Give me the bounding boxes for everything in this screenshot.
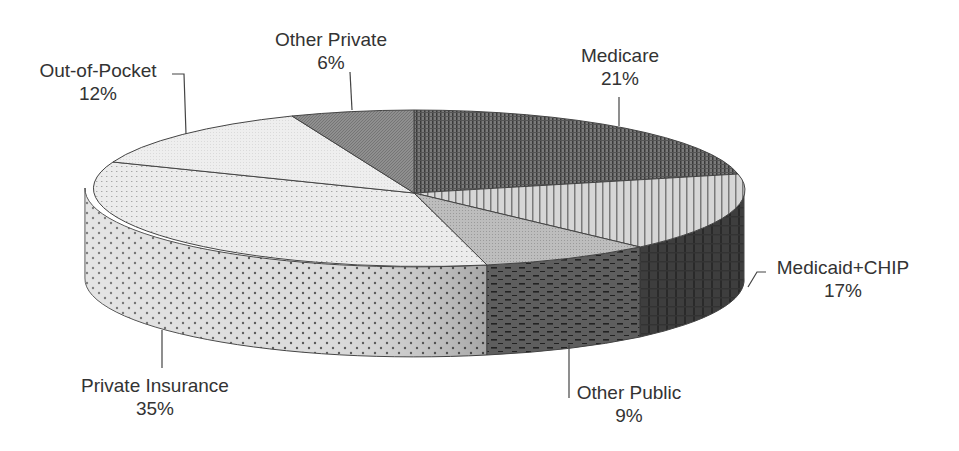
label-other-public-name: Other Public [568,381,690,404]
label-medicare: Medicare 21% [570,44,670,90]
label-medicaid-chip: Medicaid+CHIP 17% [768,256,918,302]
label-medicare-name: Medicare [570,44,670,67]
label-private-insurance-name: Private Insurance [64,374,246,397]
label-private-insurance: Private Insurance 35% [64,374,246,420]
label-out-of-pocket: Out-of-Pocket 12% [24,59,172,105]
label-other-public-value: 9% [568,404,690,427]
label-medicaid-chip-name: Medicaid+CHIP [768,256,918,279]
label-medicare-value: 21% [570,67,670,90]
label-other-private: Other Private 6% [256,28,406,74]
label-out-of-pocket-value: 12% [24,82,172,105]
leader-other-private [350,72,352,110]
label-other-private-name: Other Private [256,28,406,51]
label-private-insurance-value: 35% [64,397,246,420]
label-out-of-pocket-name: Out-of-Pocket [24,59,172,82]
leader-out-of-pocket [172,74,186,134]
label-other-private-value: 6% [256,51,406,74]
label-other-public: Other Public 9% [568,381,690,427]
leader-medicaid-chip [748,272,766,287]
label-medicaid-chip-value: 17% [768,279,918,302]
